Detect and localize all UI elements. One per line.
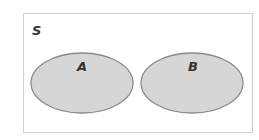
venn-diagram: S A B <box>0 0 259 140</box>
set-a-label: A <box>76 59 87 74</box>
set-b-label: B <box>188 59 198 74</box>
universe-label: S <box>32 23 41 38</box>
